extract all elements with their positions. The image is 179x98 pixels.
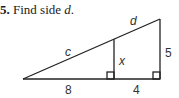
label-base-right: 4 xyxy=(133,83,140,97)
label-d: d xyxy=(130,14,137,28)
label-base-left: 8 xyxy=(65,83,72,97)
label-right-side: 5 xyxy=(165,46,172,60)
similar-triangles-diagram: c d x 5 8 4 xyxy=(0,0,179,98)
right-angle-marker-right xyxy=(153,72,160,79)
right-angle-marker-middle xyxy=(107,72,114,79)
hypotenuse-line xyxy=(23,19,160,79)
label-c: c xyxy=(65,45,71,59)
label-x: x xyxy=(118,54,126,68)
